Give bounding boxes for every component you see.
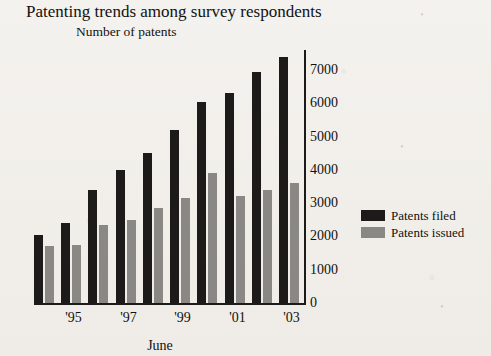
y-axis-tick: 4000 [310, 163, 338, 177]
legend-label-filed: Patents filed [391, 208, 456, 223]
legend-item-patents-filed: Patents filed [361, 208, 464, 223]
y-axis-tick: 5000 [310, 130, 338, 144]
bar-group [143, 50, 168, 303]
legend-swatch-filed [361, 210, 385, 221]
bar-patents-issued [154, 208, 163, 303]
bar-patents-issued [263, 190, 272, 303]
y-axis-tick: 6000 [310, 96, 338, 110]
bar-group [61, 50, 86, 303]
bar-group [170, 50, 195, 303]
bar-groups [34, 50, 304, 303]
bar-patents-filed [225, 93, 234, 303]
bar-patents-filed [116, 170, 125, 303]
x-axis-line [34, 303, 306, 305]
bar-patents-filed [197, 102, 206, 303]
bar-group [34, 50, 59, 303]
y-axis-tick: 0 [310, 296, 317, 310]
x-axis-tick: '95 [65, 310, 82, 325]
bar-patents-issued [236, 196, 245, 303]
y-axis-tick: 2000 [310, 229, 338, 243]
bar-patents-issued [181, 198, 190, 303]
bar-patents-issued [290, 183, 299, 303]
bar-patents-filed [252, 72, 261, 303]
y-axis-tick: 3000 [310, 196, 338, 210]
x-axis-label: June [147, 338, 173, 353]
bar-patents-filed [61, 223, 70, 303]
bar-group [197, 50, 222, 303]
bar-group [225, 50, 250, 303]
chart-subtitle: Number of patents [76, 24, 176, 40]
bar-patents-filed [88, 190, 97, 303]
bar-group [88, 50, 113, 303]
bar-patents-issued [99, 225, 108, 303]
legend-label-issued: Patents issued [391, 225, 464, 240]
bar-patents-filed [143, 153, 152, 303]
legend-swatch-issued [361, 227, 385, 238]
bar-patents-filed [34, 235, 43, 303]
x-axis-tick: '99 [174, 310, 191, 325]
scan-artifact-middle: • [400, 140, 405, 152]
scan-artifact-bottom: • [440, 300, 445, 312]
bar-patents-issued [45, 246, 54, 303]
bar-group [252, 50, 277, 303]
bar-patents-issued [72, 245, 81, 303]
y-axis-line [304, 50, 306, 304]
y-axis-tick: 7000 [310, 63, 338, 77]
x-axis-tick: '01 [229, 310, 246, 325]
x-axis-tick: '97 [120, 310, 137, 325]
bar-patents-issued [208, 173, 217, 303]
bar-patents-filed [170, 130, 179, 303]
bar-group [279, 50, 304, 303]
chart-title: Patenting trends among survey respondent… [26, 2, 322, 22]
bar-patents-filed [279, 57, 288, 303]
x-axis-tick: '03 [283, 310, 300, 325]
chart-legend: Patents filed Patents issued [361, 208, 464, 242]
y-axis-tick: 1000 [310, 263, 338, 277]
bar-group [116, 50, 141, 303]
plot-area [34, 50, 304, 303]
legend-item-patents-issued: Patents issued [361, 225, 464, 240]
bar-patents-issued [127, 220, 136, 303]
scan-artifact-top: • [420, 8, 425, 20]
